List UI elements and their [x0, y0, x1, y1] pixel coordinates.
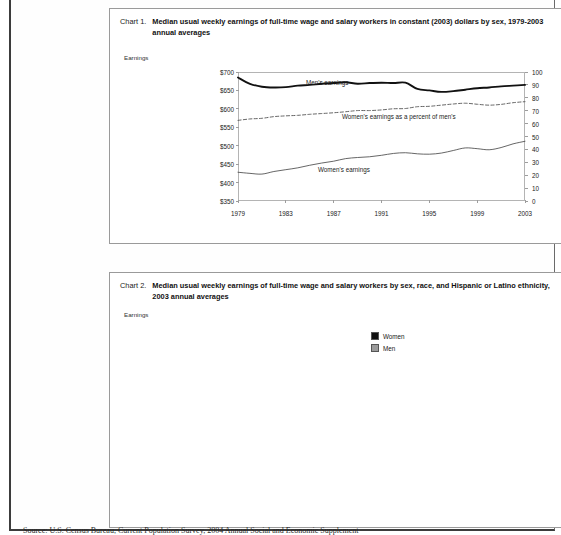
chart-2-legend: Women Men — [371, 332, 405, 356]
chart-1-label-earnings-ratio: Women's earnings as a percent of men's — [342, 113, 456, 120]
chart-1-panel: Chart 1. Median usual weekly earnings of… — [109, 8, 561, 244]
chart-1-y-tick: $550 — [204, 124, 234, 131]
chart-1-y2-tick: 10 — [532, 185, 554, 192]
chart-1-x-tick-mark — [333, 200, 334, 203]
chart-1-y2-tick: 90 — [532, 81, 554, 88]
chart-1-label-mens-earnings: Men's earnings — [306, 79, 349, 86]
chart-1-x-tick: 1979 — [231, 210, 245, 217]
chart-1-x-tick-mark — [429, 200, 430, 203]
chart-1-title: Median usual weekly earnings of full-tim… — [152, 17, 553, 38]
chart-1-y2-tick: 100 — [532, 69, 554, 76]
chart-1-y-tick: $600 — [204, 105, 234, 112]
chart-1-y2-tick-mark — [525, 162, 528, 163]
chart-1-x-tick: 1999 — [470, 210, 484, 217]
chart-1-y2-tick-mark — [525, 123, 528, 124]
chart-1-label-womens-earnings: Women's earnings — [318, 166, 370, 173]
chart-1-y-tick-mark — [236, 127, 239, 128]
chart-1-plot-area — [238, 72, 525, 201]
chart-1-y-tick: $700 — [204, 69, 234, 76]
chart-1-y2-tick-mark — [525, 136, 528, 137]
legend-item-women: Women — [371, 332, 405, 340]
legend-swatch-men-icon — [371, 344, 379, 352]
chart-1-x-tick-mark — [238, 200, 239, 203]
chart-1-y-tick: $450 — [204, 161, 234, 168]
chart-1-y2-tick: 40 — [532, 146, 554, 153]
chart-1-y2-tick: 80 — [532, 94, 554, 101]
chart-1-y-axis-unit: Earnings — [124, 54, 148, 61]
legend-label-men: Men — [383, 345, 395, 352]
legend-item-men: Men — [371, 344, 405, 352]
legend-swatch-women-icon — [371, 332, 379, 340]
chart-1-y2-tick: 30 — [532, 159, 554, 166]
chart-1-y-tick-mark — [236, 182, 239, 183]
chart-1-y2-tick: 70 — [532, 107, 554, 114]
chart-1-y2-tick: 50 — [532, 133, 554, 140]
chart-1-y2-tick: 0 — [532, 198, 554, 205]
chart-1-y2-tick-mark — [525, 72, 528, 73]
chart-1-y2-tick: 60 — [532, 120, 554, 127]
chart-1-x-tick-mark — [477, 200, 478, 203]
chart-1-y2-tick-mark — [525, 149, 528, 150]
chart-1-y2-tick-mark — [525, 110, 528, 111]
chart-1-x-tick-mark — [525, 200, 526, 203]
chart-1-x-tick: 1983 — [279, 210, 293, 217]
chart-1-y2-tick-mark — [525, 97, 528, 98]
chart-2-y-axis-unit: Earnings — [124, 311, 148, 318]
chart-1-x-tick-mark — [381, 200, 382, 203]
chart-1-x-tick: 2003 — [518, 210, 532, 217]
chart-1-y-tick-mark — [236, 145, 239, 146]
chart-1-y-tick: $350 — [204, 198, 234, 205]
chart-2-panel: Chart 2. Median usual weekly earnings of… — [109, 272, 561, 528]
chart-1-heading: Chart 1. Median usual weekly earnings of… — [120, 17, 553, 38]
chart-1-y-tick: $400 — [204, 179, 234, 186]
chart-1-y2-tick-mark — [525, 188, 528, 189]
chart-1-x-tick: 1995 — [422, 210, 436, 217]
chart-1-x-tick-mark — [285, 200, 286, 203]
chart-1-y2-tick-mark — [525, 175, 528, 176]
chart-1-y2-tick-mark — [525, 84, 528, 85]
chart-1-y-tick-mark — [236, 90, 239, 91]
chart-2-heading: Chart 2. Median usual weekly earnings of… — [120, 281, 553, 302]
chart-1-x-tick: 1987 — [327, 210, 341, 217]
scanned-page-frame: Chart 1. Median usual weekly earnings of… — [9, 0, 555, 531]
chart-1-y-tick: $500 — [204, 142, 234, 149]
chart-1-number: Chart 1. — [120, 17, 146, 38]
chart-1-y-tick-mark — [236, 108, 239, 109]
chart-1-y-tick: $650 — [204, 87, 234, 94]
chart-1-x-tick: 1991 — [374, 210, 388, 217]
chart-2-title: Median usual weekly earnings of full-tim… — [152, 281, 553, 302]
source-note: Source: U.S. Census Bureau, Current Popu… — [23, 526, 561, 535]
chart-1-y-tick-mark — [236, 72, 239, 73]
chart-2-number: Chart 2. — [120, 281, 146, 302]
legend-label-women: Women — [383, 333, 405, 340]
chart-1-y2-tick: 20 — [532, 172, 554, 179]
chart-1-y-tick-mark — [236, 164, 239, 165]
